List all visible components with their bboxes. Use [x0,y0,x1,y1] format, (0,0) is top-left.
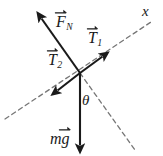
tension-2-label-letter: T [48,51,57,68]
tension-2-label: T 2 [48,52,62,68]
weight-label: mg [50,131,70,147]
tension-2-label-base: T [48,52,57,68]
normal-force-label-subscript: N [66,21,72,32]
angle-theta-label: θ [82,93,89,108]
normal-force-label-base: F [56,14,66,30]
x-axis-label: x [142,4,149,19]
tension-1-label-subscript: 1 [97,37,102,48]
force-diagram-canvas [0,0,163,156]
tension-2-label-subscript: 2 [57,59,62,70]
normal-force-label: F N [56,14,72,30]
tension-1-label-base: T [88,30,97,46]
reference-dashed-line [80,73,135,150]
weight-label-letters: mg [50,130,70,147]
weight-label-base: mg [50,131,70,147]
tension-1-vector [80,57,103,74]
tension-1-label-letter: T [88,29,97,46]
normal-force-label-letter: F [56,13,66,30]
tension-1-label: T 1 [88,30,102,46]
force-diagram: F N T 1 T 2 mg [0,0,163,156]
